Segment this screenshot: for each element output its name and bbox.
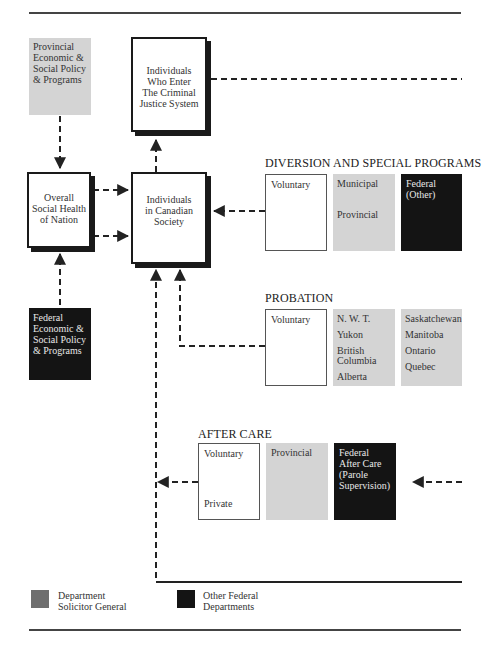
probation-voluntary-box: Voluntary bbox=[265, 309, 327, 386]
legend-line: Other Federal bbox=[203, 590, 258, 601]
after-care-federal-line: (Parole bbox=[339, 469, 391, 480]
provincial-policy-line: & Programs bbox=[33, 74, 87, 85]
after-care-provincial-box: Provincial bbox=[266, 443, 328, 520]
diversion-title: DIVERSION AND SPECIAL PROGRAMS bbox=[265, 156, 481, 171]
criminal-justice-box: Individuals Who Enter The Criminal Justi… bbox=[131, 37, 207, 132]
federal-policy-line: Economic & bbox=[33, 323, 87, 334]
provincial-policy-line: Social Policy bbox=[33, 63, 87, 74]
diversion-provincial-label: Provincial bbox=[337, 209, 378, 220]
probation-title: PROBATION bbox=[265, 291, 333, 306]
social-health-line: Social Health bbox=[29, 203, 89, 214]
provincial-policy-line: Economic & bbox=[33, 52, 87, 63]
criminal-justice-line: Who Enter bbox=[133, 76, 205, 87]
criminal-justice-line: Individuals bbox=[133, 65, 205, 76]
legend-label-other-federal: Other Federal Departments bbox=[203, 590, 258, 612]
after-care-voluntary-box: Voluntary Private bbox=[198, 443, 260, 520]
diversion-provincial-box: Municipal Provincial bbox=[333, 174, 395, 251]
legend-swatch-other-federal bbox=[177, 590, 195, 608]
after-care-title: AFTER CARE bbox=[198, 427, 272, 442]
after-care-private-label: Private bbox=[204, 498, 232, 509]
legend-label-solicitor-general: Department Solicitor General bbox=[58, 590, 127, 612]
legend-swatch-solicitor-general bbox=[31, 590, 49, 608]
diversion-municipal-label: Municipal bbox=[337, 178, 378, 189]
diversion-federal-line: (Other) bbox=[406, 189, 457, 200]
probation-region: Saskatchewan bbox=[405, 313, 462, 324]
legend-line: Departments bbox=[203, 601, 258, 612]
probation-region: Alberta bbox=[337, 371, 367, 382]
after-care-federal-box: Federal After Care (Parole Supervision) bbox=[334, 443, 396, 520]
criminal-justice-line: The Criminal bbox=[133, 87, 205, 98]
after-care-federal-line: Federal bbox=[339, 447, 391, 458]
after-care-provincial-label: Provincial bbox=[271, 447, 323, 458]
diversion-federal-box: Federal (Other) bbox=[401, 174, 462, 251]
arrow-probation-to-society bbox=[180, 270, 265, 346]
federal-policy-line: Federal bbox=[33, 312, 87, 323]
probation-region: Manitoba bbox=[405, 329, 443, 340]
probation-region: Ontario bbox=[405, 345, 436, 356]
probation-region: Yukon bbox=[337, 329, 363, 340]
probation-western-box: N. W. T. Yukon British Columbia Alberta bbox=[333, 309, 395, 386]
after-care-voluntary-label: Voluntary bbox=[204, 448, 243, 459]
probation-eastern-box: Saskatchewan Manitoba Ontario Quebec bbox=[401, 309, 462, 386]
federal-policy-line: Social Policy bbox=[33, 334, 87, 345]
provincial-policy-box: Provincial Economic & Social Policy & Pr… bbox=[29, 38, 91, 115]
probation-voluntary-label: Voluntary bbox=[271, 314, 321, 325]
provincial-policy-line: Provincial bbox=[33, 41, 87, 52]
canadian-society-line: Society bbox=[133, 216, 205, 227]
federal-policy-line: & Programs bbox=[33, 345, 87, 356]
diversion-federal-line: Federal bbox=[406, 178, 457, 189]
legend-line: Solicitor General bbox=[58, 601, 127, 612]
diversion-voluntary-label: Voluntary bbox=[271, 179, 321, 190]
probation-region: Columbia bbox=[337, 355, 376, 366]
after-care-federal-line: After Care bbox=[339, 458, 391, 469]
diversion-voluntary-box: Voluntary bbox=[265, 174, 327, 251]
canadian-society-line: in Canadian bbox=[133, 205, 205, 216]
social-health-line: Overall bbox=[29, 192, 89, 203]
probation-region: Quebec bbox=[405, 361, 436, 372]
canadian-society-box: Individuals in Canadian Society bbox=[131, 172, 207, 264]
probation-region: N. W. T. bbox=[337, 313, 370, 324]
federal-policy-box: Federal Economic & Social Policy & Progr… bbox=[29, 308, 91, 380]
social-health-line: of Nation bbox=[29, 214, 89, 225]
canadian-society-line: Individuals bbox=[133, 194, 205, 205]
social-health-box: Overall Social Health of Nation bbox=[27, 172, 91, 248]
legend-line: Department bbox=[58, 590, 127, 601]
after-care-federal-line: Supervision) bbox=[339, 480, 391, 491]
criminal-justice-line: Justice System bbox=[133, 98, 205, 109]
